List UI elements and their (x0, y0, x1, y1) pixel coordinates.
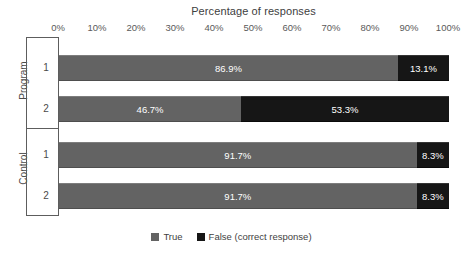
bar-segment-value-label: 8.3% (422, 191, 444, 202)
chart-title: Percentage of responses (58, 5, 449, 17)
bar-segment-false[interactable]: 13.1% (398, 55, 449, 81)
bar-segment-false[interactable]: 53.3% (241, 96, 449, 122)
legend-label: False (correct response) (209, 231, 312, 242)
x-tick-label-40: 40% (194, 22, 234, 33)
category-label-column: 1212 (26, 37, 58, 216)
group-bracket-line (26, 37, 27, 128)
category-tick-label: 2 (36, 190, 56, 201)
group-separator-tick (26, 215, 58, 216)
legend-swatch-icon (151, 233, 159, 241)
bar-segment-value-label: 86.9% (215, 63, 242, 74)
bar-segment-true[interactable]: 46.7% (59, 96, 241, 122)
group-bracket-line (26, 128, 27, 216)
bar-row[interactable]: 46.7%53.3% (59, 96, 449, 122)
x-tick-label-10: 10% (77, 22, 117, 33)
plot-area: 86.9%13.1%46.7%53.3%91.7%8.3%91.7%8.3% (58, 37, 449, 216)
legend-item[interactable]: True (151, 231, 182, 242)
bar-segment-value-label: 8.3% (422, 150, 444, 161)
bar-segment-false[interactable]: 8.3% (417, 183, 449, 209)
bar-row[interactable]: 91.7%8.3% (59, 183, 449, 209)
category-tick-label: 2 (36, 103, 56, 114)
x-axis-tick-labels: 0%10%20%30%40%50%60%70%80%90%100% (58, 22, 449, 36)
x-tick-label-70: 70% (311, 22, 351, 33)
bar-segment-value-label: 91.7% (224, 191, 251, 202)
bar-segment-true[interactable]: 86.9% (59, 55, 398, 81)
bar-row[interactable]: 86.9%13.1% (59, 55, 449, 81)
bar-segment-value-label: 46.7% (137, 104, 164, 115)
legend-item[interactable]: False (correct response) (197, 231, 312, 242)
x-tick-label-90: 90% (389, 22, 429, 33)
bar-segment-true[interactable]: 91.7% (59, 183, 417, 209)
chart-legend: TrueFalse (correct response) (0, 231, 463, 242)
x-tick-label-80: 80% (350, 22, 390, 33)
bar-row[interactable]: 91.7%8.3% (59, 142, 449, 168)
category-tick-label: 1 (36, 149, 56, 160)
bar-segment-true[interactable]: 91.7% (59, 142, 417, 168)
bar-segment-value-label: 13.1% (410, 63, 437, 74)
group-separator-tick (26, 37, 58, 38)
x-tick-label-100: 100% (428, 22, 463, 33)
x-tick-label-60: 60% (272, 22, 312, 33)
x-tick-label-50: 50% (233, 22, 273, 33)
bar-segment-value-label: 91.7% (224, 150, 251, 161)
percentage-of-responses-chart: Percentage of responses 0%10%20%30%40%50… (0, 0, 463, 264)
category-tick-label: 1 (36, 62, 56, 73)
bar-segment-value-label: 53.3% (332, 104, 359, 115)
x-tick-label-20: 20% (116, 22, 156, 33)
bar-segment-false[interactable]: 8.3% (417, 142, 449, 168)
legend-swatch-icon (197, 233, 205, 241)
x-tick-label-0: 0% (38, 22, 78, 33)
group-separator-tick (26, 128, 58, 129)
x-tick-label-30: 30% (155, 22, 195, 33)
legend-label: True (163, 231, 182, 242)
